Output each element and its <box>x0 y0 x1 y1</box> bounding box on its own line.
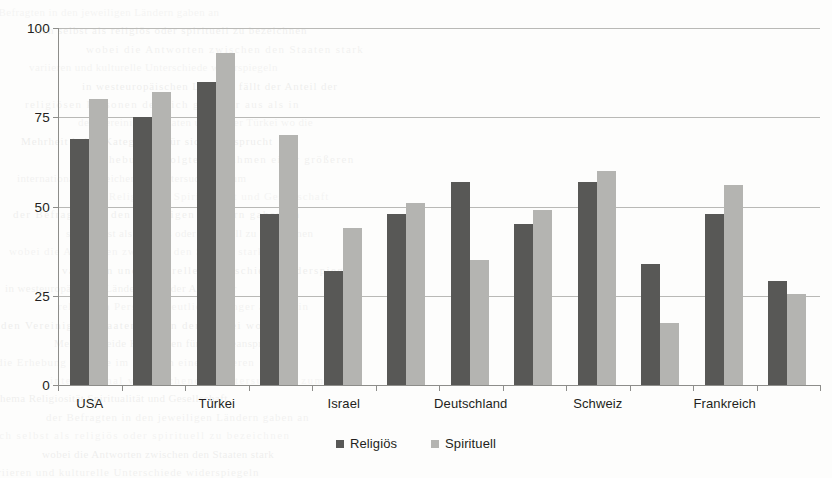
y-axis-tick-label: 0 <box>8 378 50 393</box>
bar <box>470 260 489 385</box>
bar <box>89 99 108 385</box>
x-axis-tick-mark <box>439 385 440 391</box>
bar-group <box>386 28 426 385</box>
bar-group <box>450 28 490 385</box>
bar <box>660 323 679 385</box>
x-axis-tick-mark <box>757 385 758 391</box>
bar <box>279 135 298 385</box>
x-axis-category-label: Schweiz <box>573 396 622 411</box>
bar-chart: 0255075100 USATürkeiIsraelDeutschlandSch… <box>0 0 832 478</box>
bar <box>705 214 724 385</box>
bar <box>260 214 279 385</box>
bar <box>514 224 533 385</box>
x-axis-tick-mark <box>58 385 59 391</box>
x-axis-tick-mark <box>249 385 250 391</box>
x-axis-tick-mark <box>820 385 821 391</box>
bar <box>70 139 89 385</box>
legend-label: Religiös <box>350 436 397 451</box>
bar <box>324 271 343 385</box>
x-axis-tick-mark <box>630 385 631 391</box>
bar <box>406 203 425 385</box>
x-axis-category-label: Türkei <box>198 396 235 411</box>
bar <box>597 171 616 385</box>
x-axis-tick-mark <box>693 385 694 391</box>
y-axis-line <box>58 28 59 385</box>
bar-group <box>767 28 807 385</box>
bar-group <box>640 28 680 385</box>
bar <box>216 53 235 385</box>
y-axis-tick-label: 75 <box>8 110 50 125</box>
bar <box>133 117 152 385</box>
bar <box>641 264 660 385</box>
x-axis-category-label: Israel <box>328 396 360 411</box>
legend-swatch-icon <box>431 440 439 448</box>
bar-group <box>196 28 236 385</box>
chart-legend: ReligiösSpirituell <box>0 436 832 451</box>
x-axis-tick-mark <box>122 385 123 391</box>
bar <box>787 294 806 385</box>
x-axis-tick-mark <box>312 385 313 391</box>
bar <box>578 182 597 385</box>
bar <box>768 281 787 385</box>
x-axis-category-label: Deutschland <box>434 396 507 411</box>
bar <box>533 210 552 385</box>
bar-group <box>69 28 109 385</box>
legend-swatch-icon <box>336 440 344 448</box>
bar <box>152 92 171 385</box>
bar <box>343 228 362 385</box>
legend-label: Spirituell <box>445 436 496 451</box>
bar-group <box>323 28 363 385</box>
x-axis-tick-mark <box>376 385 377 391</box>
x-axis-tick-mark <box>503 385 504 391</box>
x-axis-tick-mark <box>185 385 186 391</box>
bar-group <box>259 28 299 385</box>
y-axis-tick-label: 25 <box>8 288 50 303</box>
bar <box>387 214 406 385</box>
y-axis-tick-label: 100 <box>8 21 50 36</box>
x-axis-tick-mark <box>566 385 567 391</box>
bar <box>197 82 216 385</box>
bar-group <box>132 28 172 385</box>
bar <box>451 182 470 385</box>
y-axis-tick-label: 50 <box>8 199 50 214</box>
legend-item: Religiös <box>336 436 397 451</box>
bar-group <box>577 28 617 385</box>
x-axis-category-label: Frankreich <box>694 396 756 411</box>
bar <box>724 185 743 385</box>
bar-group <box>513 28 553 385</box>
plot-area <box>58 28 820 385</box>
x-axis-category-label: USA <box>76 396 103 411</box>
bar-group <box>704 28 744 385</box>
legend-item: Spirituell <box>431 436 496 451</box>
